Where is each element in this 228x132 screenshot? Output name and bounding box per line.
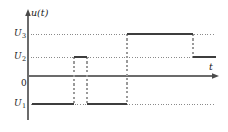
origin-label: 0	[21, 79, 27, 88]
y-axis-arrow	[25, 9, 31, 16]
tick-label-U1-subscript: 1	[22, 102, 26, 110]
transition-edge-group	[74, 34, 193, 104]
tick-label-U1: U1	[14, 99, 26, 108]
tick-label-U2: U2	[14, 52, 26, 61]
tick-label-U3-subscript: 3	[22, 32, 26, 40]
tick-label-U1-base: U	[14, 98, 22, 108]
tick-label-U2-base: U	[14, 51, 22, 61]
tick-label-U2-subscript: 2	[22, 55, 26, 63]
waveform-trace-group	[32, 34, 216, 104]
x-axis-arrow	[212, 73, 219, 79]
waveform-plot	[0, 0, 228, 132]
waveform-figure: u(t) t 0 U3 U2 U1	[0, 0, 228, 132]
tick-label-U3-base: U	[14, 28, 22, 38]
tick-label-U3: U3	[14, 29, 26, 38]
x-axis-label: t	[209, 62, 213, 72]
gridline-group	[28, 34, 214, 104]
y-axis-label: u(t)	[31, 8, 48, 18]
